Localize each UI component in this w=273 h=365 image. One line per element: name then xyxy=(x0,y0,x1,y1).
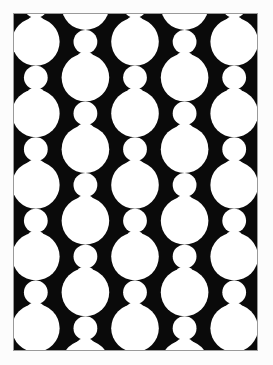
lattice-circle-small xyxy=(74,101,98,125)
lattice-circle-large xyxy=(14,18,60,66)
lattice-circle-small xyxy=(74,245,98,269)
lattice-circle-large xyxy=(62,125,110,173)
lattice-circle-small xyxy=(123,137,147,161)
lattice-circle-large xyxy=(62,197,110,245)
artwork-frame xyxy=(13,13,258,351)
lattice-circle-small xyxy=(173,245,197,269)
lattice-circle-small xyxy=(123,209,147,233)
lattice-circle-small xyxy=(222,66,246,90)
lattice-circle-small xyxy=(24,137,48,161)
lattice-circle-large xyxy=(161,197,209,245)
lattice-circle-small xyxy=(173,30,197,54)
lattice-circle-large xyxy=(111,161,159,209)
lattice-circle-large xyxy=(111,304,159,350)
lattice-circle-small xyxy=(24,280,48,304)
circle-lattice-pattern xyxy=(14,14,257,350)
artwork-page: Black and White Circle Lattice Print xyxy=(0,0,273,365)
lattice-circle-large xyxy=(62,268,110,316)
lattice-circle-large xyxy=(111,233,159,281)
lattice-circle-large xyxy=(14,161,60,209)
lattice-circle-large xyxy=(14,90,60,138)
lattice-circle-large xyxy=(14,233,60,281)
lattice-circle-small xyxy=(24,66,48,90)
lattice-circle-small xyxy=(173,101,197,125)
lattice-circle-large xyxy=(161,125,209,173)
lattice-circle-small xyxy=(123,66,147,90)
lattice-circle-large xyxy=(210,18,257,66)
lattice-circle-large xyxy=(210,90,257,138)
lattice-circle-small xyxy=(74,30,98,54)
lattice-circle-small xyxy=(24,209,48,233)
lattice-circle-small xyxy=(173,316,197,340)
lattice-circle-large xyxy=(210,161,257,209)
lattice-circle-small xyxy=(123,280,147,304)
lattice-circle-small xyxy=(222,280,246,304)
lattice-circle-large xyxy=(210,233,257,281)
lattice-circle-small xyxy=(74,173,98,197)
lattice-circle-small xyxy=(222,137,246,161)
lattice-circle-large xyxy=(111,90,159,138)
lattice-circle-small xyxy=(74,316,98,340)
lattice-circle-large xyxy=(161,268,209,316)
lattice-circle-large xyxy=(111,18,159,66)
lattice-circle-large xyxy=(161,54,209,102)
lattice-circle-small xyxy=(222,209,246,233)
lattice-circle-large xyxy=(62,54,110,102)
lattice-circle-small xyxy=(173,173,197,197)
